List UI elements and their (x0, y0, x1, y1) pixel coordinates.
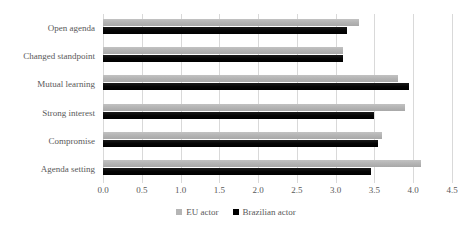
x-tick-label: 4.5 (446, 185, 457, 195)
legend-swatch-icon (233, 209, 239, 215)
legend-item-eu-actor[interactable]: EU actor (176, 207, 218, 217)
bar-brazilian-actor (103, 83, 409, 90)
bar-brazilian-actor (103, 27, 347, 34)
category-label-row: Mutual learning (0, 70, 99, 98)
bar-brazilian-actor (103, 55, 343, 62)
bar-eu-actor (103, 47, 343, 54)
bar-brazilian-actor (103, 140, 378, 147)
bar-brazilian-actor (103, 168, 371, 175)
category-label-row: Compromise (0, 127, 99, 155)
x-tick-label: 3.0 (330, 185, 341, 195)
value-axis-tick-labels: 0.00.51.01.52.02.53.03.54.04.5 (0, 185, 472, 199)
category-label-row: Open agenda (0, 14, 99, 42)
bar-eu-actor (103, 75, 398, 82)
category-label: Strong interest (42, 108, 99, 118)
chart-legend: EU actorBrazilian actor (0, 207, 472, 217)
bar-group (103, 99, 452, 127)
x-tick-label: 2.0 (252, 185, 263, 195)
plot-area (103, 14, 452, 183)
bar-chart: Open agendaChanged standpointMutual lear… (0, 0, 472, 229)
category-label-row: Strong interest (0, 99, 99, 127)
x-tick-label: 1.0 (175, 185, 186, 195)
bar-group (103, 70, 452, 98)
legend-item-brazilian-actor[interactable]: Brazilian actor (233, 207, 296, 217)
legend-label: Brazilian actor (243, 207, 296, 217)
category-label-row: Changed standpoint (0, 42, 99, 70)
category-label-row: Agenda setting (0, 155, 99, 183)
bar-eu-actor (103, 19, 359, 26)
bar-eu-actor (103, 132, 382, 139)
category-axis-labels: Open agendaChanged standpointMutual lear… (0, 14, 99, 183)
category-label: Agenda setting (41, 164, 99, 174)
legend-label: EU actor (186, 207, 218, 217)
bar-group (103, 127, 452, 155)
category-label: Open agenda (48, 23, 99, 33)
x-tick-label: 3.5 (369, 185, 380, 195)
category-label: Compromise (49, 136, 100, 146)
bar-brazilian-actor (103, 112, 374, 119)
x-tick-label: 2.5 (291, 185, 302, 195)
bar-group (103, 14, 452, 42)
gridline-4.5 (452, 14, 453, 183)
bar-eu-actor (103, 104, 405, 111)
x-tick-label: 1.5 (214, 185, 225, 195)
category-label: Changed standpoint (23, 51, 99, 61)
x-tick-label: 0.5 (136, 185, 147, 195)
bar-group (103, 42, 452, 70)
category-label: Mutual learning (37, 79, 99, 89)
x-tick-label: 4.0 (408, 185, 419, 195)
bar-eu-actor (103, 160, 421, 167)
legend-swatch-icon (176, 209, 182, 215)
x-tick-label: 0.0 (97, 185, 108, 195)
bar-group (103, 155, 452, 183)
